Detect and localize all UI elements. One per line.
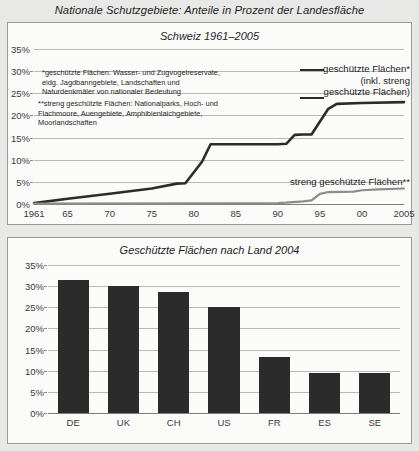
x-axis-tick-label: 95 [315, 208, 326, 219]
y-axis-tick-mark [30, 71, 33, 72]
x-axis-tick-label: 80 [188, 208, 199, 219]
x-axis-tick-label: SE [369, 417, 382, 428]
y-axis-tick-mark [44, 413, 47, 414]
x-axis-tick-label: ES [318, 417, 331, 428]
gridline [48, 286, 400, 287]
legend-label-protected: geschützte Flächen* (inkl. streng geschü… [210, 63, 410, 98]
y-axis-tick-label: 20% [11, 110, 30, 121]
bar [309, 373, 340, 413]
x-axis-tick-label: 65 [62, 208, 73, 219]
gridline [48, 413, 400, 414]
y-axis-tick-mark [30, 93, 33, 94]
y-axis-tick-label: 10% [11, 154, 30, 165]
y-axis-tick-label: 5% [16, 176, 30, 187]
x-axis-tick-label: 70 [104, 208, 115, 219]
x-axis-tick-label: 75 [146, 208, 157, 219]
y-axis-tick-mark [44, 307, 47, 308]
y-axis-tick-label: 15% [11, 132, 30, 143]
x-axis-tick-label: DE [67, 417, 80, 428]
bar [158, 292, 189, 413]
legend-label-strictly-protected: streng geschützte Flächen** [210, 176, 410, 188]
x-axis-tick-label: 85 [231, 208, 242, 219]
y-axis-tick-mark [44, 392, 47, 393]
x-axis-tick-label: FR [268, 417, 281, 428]
y-axis-tick-mark [30, 115, 33, 116]
bar [208, 307, 239, 413]
y-axis-tick-mark [44, 286, 47, 287]
bar [108, 286, 139, 413]
x-axis-tick-label: 2005 [393, 208, 414, 219]
bar-chart-plot-area: 0%5%10%15%20%25%30%35% DEUKCHUSFRESSE [48, 265, 400, 413]
bar-chart-title: Geschützte Flächen nach Land 2004 [8, 244, 411, 256]
x-axis-tick-label: 00 [357, 208, 368, 219]
page-title: Nationale Schutzgebiete: Anteile in Proz… [0, 4, 419, 16]
y-axis-tick-label: 0% [30, 408, 44, 419]
y-axis-tick-label: 25% [11, 88, 30, 99]
y-axis-tick-label: 30% [25, 281, 44, 292]
y-axis-tick-label: 30% [11, 66, 30, 77]
x-axis-tick-label: 90 [273, 208, 284, 219]
y-axis-tick-mark [44, 328, 47, 329]
y-axis-tick-label: 35% [11, 44, 30, 55]
x-axis-tick-label: US [217, 417, 230, 428]
y-axis-tick-label: 15% [25, 344, 44, 355]
y-axis-tick-label: 25% [25, 302, 44, 313]
y-axis-tick-mark [44, 371, 47, 372]
y-axis-tick-mark [44, 265, 47, 266]
line-chart-title: Schweiz 1961–2005 [8, 30, 411, 42]
bar [259, 357, 290, 413]
y-axis-tick-mark [30, 160, 33, 161]
y-axis-tick-label: 35% [25, 260, 44, 271]
x-axis-tick-label: UK [117, 417, 130, 428]
bar [359, 373, 390, 413]
y-axis-tick-label: 10% [25, 365, 44, 376]
y-axis-tick-label: 20% [25, 323, 44, 334]
x-axis-tick-label: 1961 [23, 208, 44, 219]
x-axis-tick-label: CH [167, 417, 181, 428]
y-axis-tick-mark [44, 350, 47, 351]
y-axis-tick-mark [30, 182, 33, 183]
gridline [48, 265, 400, 266]
footnote-2-text: **streng geschützte Flächen: Nationalpar… [38, 99, 218, 128]
bar [58, 280, 89, 413]
y-axis-tick-mark [30, 138, 33, 139]
y-axis-tick-label: 5% [30, 386, 44, 397]
